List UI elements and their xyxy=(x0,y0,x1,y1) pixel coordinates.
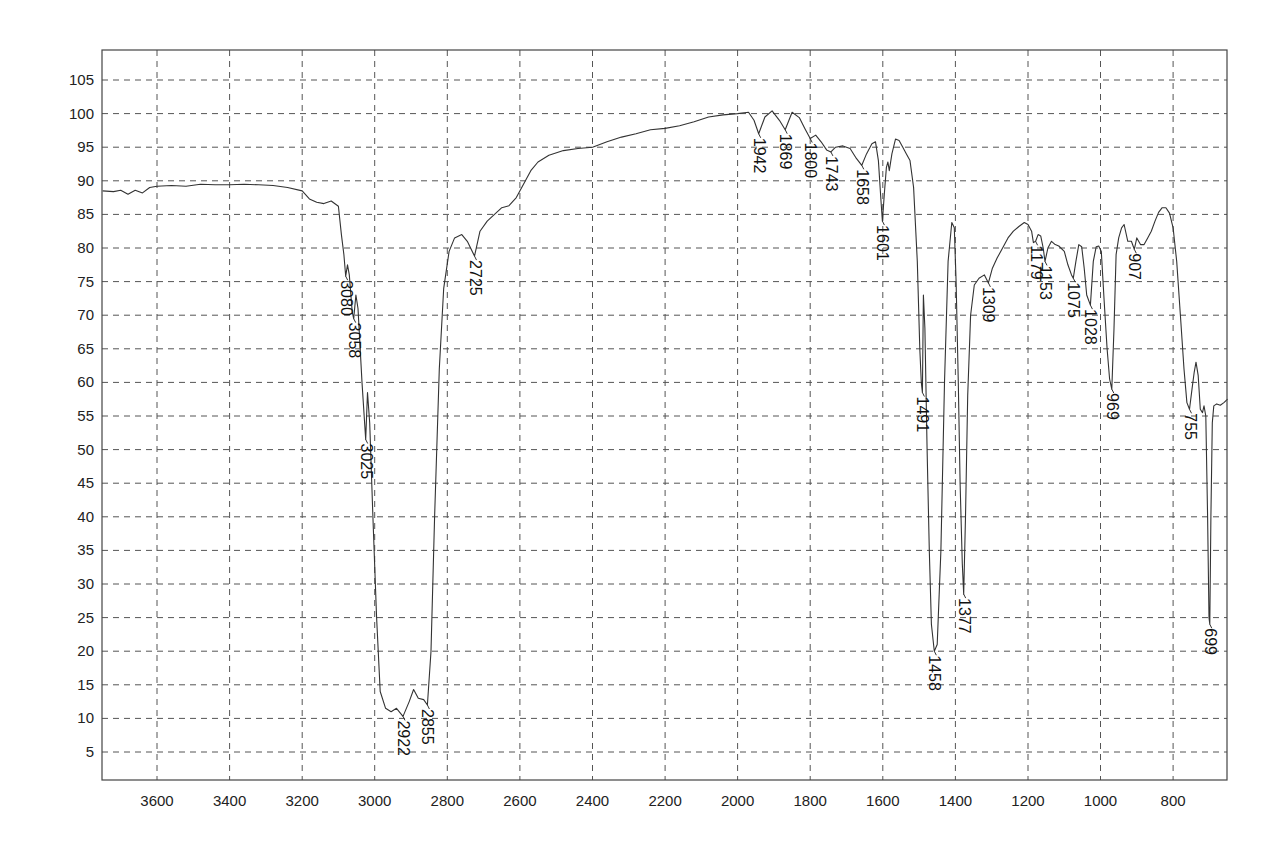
peak-label-907: 907 xyxy=(1126,249,1143,280)
y-tick-label: 60 xyxy=(77,373,94,390)
peak-label-1028: 1028 xyxy=(1082,305,1099,345)
peak-wavenumber: 1309 xyxy=(980,287,997,323)
y-tick-label: 70 xyxy=(77,306,94,323)
peak-wavenumber: 1153 xyxy=(1037,265,1054,300)
y-tick-label: 45 xyxy=(77,474,94,491)
peak-label-1658: 1658 xyxy=(854,165,871,205)
peak-wavenumber: 1028 xyxy=(1082,309,1099,345)
peak-label-755: 755 xyxy=(1182,409,1199,440)
peak-label-3058: 3058 xyxy=(346,319,363,359)
y-tick-label: 80 xyxy=(77,239,94,256)
peak-label-1075: 1075 xyxy=(1065,278,1082,318)
x-tick-label: 3200 xyxy=(286,792,319,809)
peak-label-699: 699 xyxy=(1202,624,1219,655)
y-tick-label: 25 xyxy=(77,609,94,626)
peak-wavenumber: 2855 xyxy=(419,709,436,745)
peak-wavenumber: 1942 xyxy=(751,138,768,174)
peak-wavenumber: 2725 xyxy=(467,260,484,296)
x-tick-label: 1400 xyxy=(939,792,972,809)
peak-label-3025: 3025 xyxy=(358,440,375,480)
peak-wavenumber: 1377 xyxy=(956,598,973,634)
peak-label-1458: 1458 xyxy=(926,651,943,691)
peak-label-2855: 2855 xyxy=(419,705,436,745)
y-tick-label: 10 xyxy=(77,709,94,726)
y-tick-label: 35 xyxy=(77,541,94,558)
peak-label-2725: 2725 xyxy=(467,256,484,296)
peak-label-2922: 2922 xyxy=(395,716,412,756)
peak-wavenumber: 1869 xyxy=(777,134,794,170)
x-tick-label: 2400 xyxy=(576,792,609,809)
x-tick-label: 2800 xyxy=(431,792,464,809)
peak-wavenumber: 3080 xyxy=(338,280,355,316)
peak-wavenumber: 1658 xyxy=(854,169,871,205)
peak-label-969: 969 xyxy=(1104,389,1121,420)
y-tick-label: 85 xyxy=(77,205,94,222)
x-tick-label: 3600 xyxy=(140,792,173,809)
y-tick-label: 20 xyxy=(77,642,94,659)
peak-label-3080: 3080 xyxy=(338,276,355,316)
y-tick-label: 15 xyxy=(77,676,94,693)
peak-label-1309: 1309 xyxy=(980,283,997,323)
peak-label-1601: 1601 xyxy=(874,221,891,261)
y-tick-label: 40 xyxy=(77,508,94,525)
peak-wavenumber: 1800 xyxy=(802,143,819,179)
x-tick-label: 3000 xyxy=(358,792,391,809)
y-tick-label: 105 xyxy=(69,71,94,88)
peak-wavenumber: 1075 xyxy=(1065,282,1082,318)
x-tick-label: 1600 xyxy=(866,792,899,809)
peak-wavenumber: 2922 xyxy=(395,720,412,756)
chart-background xyxy=(0,0,1283,841)
x-tick-label: 1800 xyxy=(794,792,827,809)
peak-wavenumber: 3058 xyxy=(346,323,363,359)
x-tick-label: 2600 xyxy=(503,792,536,809)
x-tick-label: 800 xyxy=(1161,792,1186,809)
x-tick-label: 3400 xyxy=(213,792,246,809)
peak-label-1153: 1153 xyxy=(1037,261,1054,300)
y-tick-label: 65 xyxy=(77,340,94,357)
peak-label-1800: 1800 xyxy=(802,139,819,179)
y-tick-label: 55 xyxy=(77,407,94,424)
y-tick-label: 30 xyxy=(77,575,94,592)
x-tick-label: 2000 xyxy=(721,792,754,809)
peak-label-1869: 1869 xyxy=(777,130,794,170)
peak-label-1491: 1491 xyxy=(914,393,931,433)
x-tick-label: 2200 xyxy=(648,792,681,809)
peak-wavenumber: 907 xyxy=(1126,253,1143,280)
peak-wavenumber: 755 xyxy=(1182,413,1199,440)
peak-wavenumber: 3025 xyxy=(358,444,375,480)
peak-wavenumber: 1601 xyxy=(874,225,891,261)
peak-wavenumber: 1491 xyxy=(914,397,931,433)
peak-label-1743: 1743 xyxy=(823,152,840,192)
ir-spectrum-chart: 5101520253035404550556065707580859095100… xyxy=(0,0,1283,841)
peak-wavenumber: 1458 xyxy=(926,655,943,691)
x-axis-tick-labels: 3600340032003000280026002400220020001800… xyxy=(140,792,1185,809)
x-tick-label: 1000 xyxy=(1084,792,1117,809)
y-tick-label: 95 xyxy=(77,138,94,155)
peak-label-1942: 1942 xyxy=(751,134,768,174)
peak-wavenumber: 1743 xyxy=(823,156,840,192)
x-tick-label: 1200 xyxy=(1011,792,1044,809)
y-tick-label: 90 xyxy=(77,172,94,189)
peak-wavenumber: 969 xyxy=(1104,393,1121,420)
peak-wavenumber: 699 xyxy=(1202,628,1219,655)
y-tick-label: 100 xyxy=(69,105,94,122)
peak-label-1377: 1377 xyxy=(956,594,973,634)
y-tick-label: 5 xyxy=(86,743,94,760)
y-tick-label: 75 xyxy=(77,273,94,290)
y-tick-label: 50 xyxy=(77,441,94,458)
